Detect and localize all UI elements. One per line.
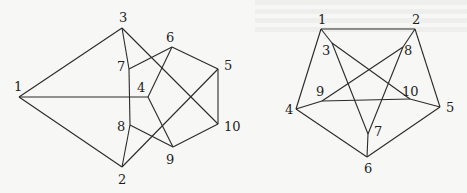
edge-9-10 (322, 99, 410, 101)
right-graph: 12345678910 (285, 12, 454, 176)
vertex-label-10: 10 (224, 119, 241, 134)
vertex-label-6: 6 (166, 30, 174, 45)
edge-7-6 (129, 47, 172, 69)
graph-figure: 12345678910 12345678910 (0, 0, 467, 193)
vertex-label-7: 7 (374, 124, 382, 139)
edge-3-7 (332, 43, 368, 134)
vertex-label-4: 4 (285, 102, 293, 117)
edge-9-4 (296, 101, 322, 109)
left-graph: 12345678910 (14, 10, 241, 187)
edge-6-4 (148, 47, 172, 97)
vertex-label-8: 8 (117, 119, 125, 134)
vertex-label-9: 9 (316, 84, 324, 99)
edge-4-6 (296, 109, 367, 157)
vertex-label-3: 3 (322, 43, 330, 58)
edge-3-10 (332, 43, 410, 99)
vertex-label-10: 10 (402, 84, 419, 99)
vertex-label-5: 5 (446, 100, 454, 115)
edge-7-8 (129, 69, 130, 125)
edge-1-2 (19, 97, 122, 167)
vertex-label-7: 7 (117, 59, 125, 74)
vertex-label-1: 1 (318, 12, 326, 27)
vertex-label-2: 2 (412, 12, 420, 27)
vertex-label-4: 4 (137, 80, 145, 95)
vertex-label-6: 6 (364, 161, 372, 176)
vertex-label-5: 5 (224, 58, 232, 73)
vertex-label-8: 8 (404, 43, 412, 58)
vertex-label-2: 2 (118, 172, 126, 187)
edge-1-3 (321, 29, 332, 43)
edge-6-5 (172, 47, 218, 69)
edge-8-9 (322, 47, 403, 101)
vertex-label-3: 3 (119, 10, 127, 25)
edge-4-9 (148, 97, 173, 147)
edge-8-9 (130, 125, 173, 147)
edge-2-5 (415, 29, 440, 107)
edge-9-10 (173, 124, 218, 147)
edge-6-7 (367, 134, 368, 157)
vertex-label-1: 1 (14, 79, 22, 94)
edge-1-3 (19, 28, 122, 97)
vertex-label-9: 9 (166, 152, 174, 167)
edge-10-5 (410, 99, 440, 107)
